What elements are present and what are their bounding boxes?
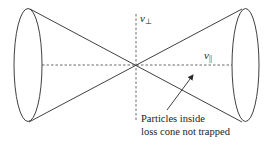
left-cone-base-ellipse [14, 9, 42, 122]
annotation-arrow [167, 75, 193, 110]
annotation-line-1: Particles inside [141, 113, 205, 124]
v-parallel-label: v|| [204, 49, 212, 63]
right-cone-base-ellipse [232, 9, 259, 122]
loss-cone-diagram: v⊥ v|| Particles inside loss cone not tr… [0, 0, 273, 157]
v-perpendicular-label: v⊥ [140, 12, 152, 26]
annotation-line-2: loss cone not trapped [141, 126, 231, 137]
